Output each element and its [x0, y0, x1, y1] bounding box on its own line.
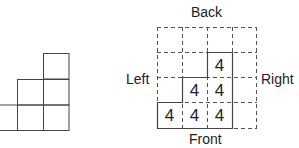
label-front: Front [189, 132, 222, 146]
cell-value: 4 [157, 103, 182, 128]
cell-value: 4 [207, 103, 232, 128]
label-right: Right [261, 72, 294, 86]
plan-view-grid [0, 0, 299, 148]
cell-value: 4 [182, 78, 207, 103]
label-back: Back [191, 5, 222, 19]
cell-value: 4 [182, 103, 207, 128]
cell-value: 4 [207, 78, 232, 103]
label-left: Left [126, 72, 149, 86]
cell-value: 4 [207, 53, 232, 78]
